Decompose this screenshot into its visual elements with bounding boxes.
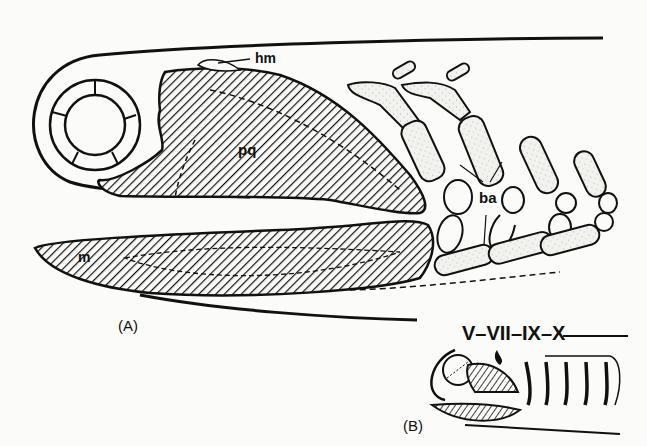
eye-icon bbox=[50, 80, 140, 170]
label-nerves: V–VII–IX–X bbox=[462, 323, 565, 343]
caption-a: (A) bbox=[118, 318, 138, 333]
gill-slits bbox=[526, 362, 607, 405]
label-hm: hm bbox=[255, 51, 276, 65]
diagram-canvas bbox=[0, 0, 647, 446]
lower-jaw-outline bbox=[140, 295, 417, 320]
caption-b: (B) bbox=[403, 418, 423, 433]
label-pq: pq bbox=[238, 142, 256, 157]
mandible-cartilage bbox=[35, 221, 433, 295]
label-ba: ba bbox=[479, 190, 497, 205]
panel-b bbox=[431, 336, 628, 434]
panel-a bbox=[34, 38, 617, 320]
label-m: m bbox=[78, 250, 90, 264]
